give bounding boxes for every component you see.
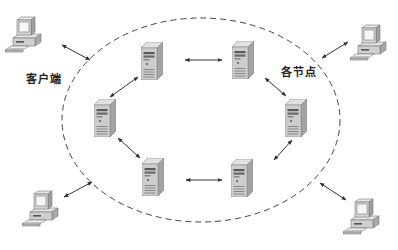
- computer-icon: [22, 191, 58, 226]
- link-bottom-left: [118, 138, 140, 158]
- server-icon: [232, 41, 254, 79]
- link-bottom-right: [274, 140, 292, 160]
- client-link-bottom-left: [64, 182, 92, 197]
- computer-icon: [5, 17, 41, 52]
- computer-icon: [350, 25, 386, 60]
- server-icon: [285, 99, 307, 137]
- server-icon: [141, 42, 163, 80]
- network-diagram: [0, 0, 398, 250]
- client-label: 客户端: [26, 70, 62, 86]
- link-top-right: [265, 78, 286, 96]
- nodes-label: 各节点: [281, 63, 317, 79]
- link-top-left: [110, 77, 138, 97]
- computer-icon: [343, 199, 379, 234]
- node-links: [110, 60, 292, 180]
- server-icon: [142, 158, 164, 196]
- client-link-bottom-right: [320, 183, 346, 200]
- server-icon: [231, 159, 253, 197]
- server-nodes: [94, 41, 307, 197]
- client-link-top-left: [62, 45, 90, 60]
- server-icon: [94, 99, 116, 137]
- client-link-top-right: [322, 42, 348, 58]
